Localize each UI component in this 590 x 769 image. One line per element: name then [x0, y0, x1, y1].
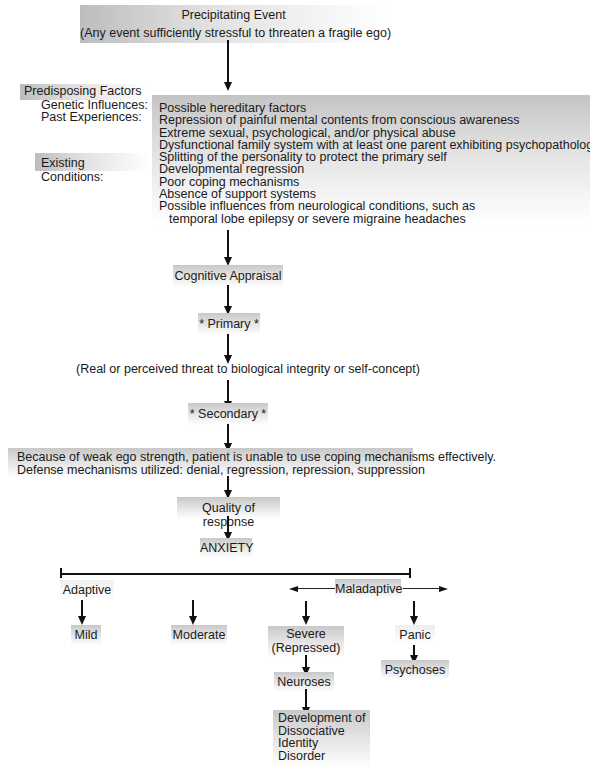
arrow-line: [227, 40, 229, 83]
factor-item: Developmental regression: [159, 163, 590, 175]
factor-item: temporal lobe epilepsy or severe migrain…: [159, 213, 590, 225]
cognitive-appraisal-box: Cognitive Appraisal: [173, 265, 283, 287]
factor-item: Possible influences from neurological co…: [159, 200, 590, 212]
precipitating-event-subtitle: (Any event sufficiently stressful to thr…: [80, 26, 387, 40]
moderate-label: Moderate: [173, 628, 226, 642]
precipitating-event-box: Precipitating Event (Any event sufficien…: [80, 5, 387, 43]
arrow-down-icon: [78, 616, 86, 625]
severe-label: Severe: [268, 628, 344, 642]
arrow-line: [227, 380, 229, 402]
arrow-line: [227, 424, 229, 444]
primary-box: * Primary *: [198, 313, 260, 335]
coping-line-1: Because of weak ego strength, patient is…: [17, 451, 413, 464]
anxiety-label: ANXIETY: [200, 541, 254, 555]
predisposing-heading: Predisposing Factors: [24, 84, 141, 98]
arrow-line: [227, 334, 229, 356]
severe-sublabel: (Repressed): [268, 642, 344, 656]
neuroses-label: Neuroses: [277, 675, 331, 689]
arrow-line: [305, 689, 307, 709]
arrow-down-icon: [189, 616, 197, 625]
adaptive-label: Adaptive: [63, 583, 112, 597]
existing-label-box: Existing Conditions:: [35, 153, 150, 171]
cognitive-appraisal-label: Cognitive Appraisal: [174, 269, 281, 283]
continuum-line: [61, 573, 411, 575]
label-existing: Existing Conditions:: [41, 156, 104, 184]
secondary-label: * Secondary *: [190, 407, 266, 421]
secondary-box: * Secondary *: [188, 403, 268, 425]
mild-label: Mild: [75, 628, 98, 642]
did-line: Disorder: [278, 750, 370, 763]
moderate-box: Moderate: [171, 625, 227, 645]
maladaptive-arrow-line-right: [403, 588, 439, 589]
mild-box: Mild: [71, 625, 101, 645]
threat-label: (Real or perceived threat to biological …: [76, 362, 420, 376]
arrow-left-icon: [289, 586, 298, 592]
maladaptive-label: Maladaptive: [335, 582, 402, 596]
psychoses-label: Psychoses: [385, 663, 445, 677]
coping-box: Because of weak ego strength, patient is…: [8, 448, 413, 478]
did-line: Development of: [278, 712, 370, 725]
factor-item: Repression of painful mental contents fr…: [159, 114, 590, 126]
predisposing-factors-box: Possible hereditary factors Repression o…: [152, 95, 590, 225]
did-line: Identity: [278, 737, 370, 750]
maladaptive-arrow-line-left: [297, 588, 335, 589]
arrow-line: [227, 230, 229, 258]
arrow-right-icon: [439, 586, 448, 592]
did-box: Development of Dissociative Identity Dis…: [273, 710, 370, 768]
severe-box: Severe (Repressed): [268, 626, 344, 658]
anxiety-box: ANXIETY: [200, 538, 252, 558]
psychoses-box: Psychoses: [381, 660, 449, 680]
arrow-down-icon: [224, 82, 232, 91]
arrow-down-icon: [410, 616, 418, 625]
maladaptive-box: Maladaptive: [335, 579, 401, 599]
precipitating-event-title: Precipitating Event: [80, 8, 387, 22]
coping-line-2: Defense mechanisms utilized: denial, reg…: [17, 464, 413, 477]
primary-label: * Primary *: [199, 317, 259, 331]
panic-box: Panic: [395, 625, 435, 645]
continuum-tick-left: [60, 568, 62, 578]
arrow-line: [227, 285, 229, 307]
panic-label: Panic: [399, 628, 430, 642]
label-past: Past Experiences:: [41, 110, 142, 124]
neuroses-box: Neuroses: [274, 672, 334, 692]
arrow-down-icon: [302, 616, 310, 625]
continuum-tick-right: [409, 568, 411, 578]
adaptive-box: Adaptive: [60, 580, 114, 600]
